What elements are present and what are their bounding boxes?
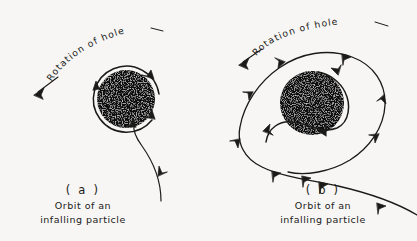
infall-arrowheads-a [126, 118, 167, 176]
black-hole-disk-a [97, 70, 155, 128]
panel-a-caption-block: ( a ) Orbit of an infalling particle [8, 183, 158, 226]
panel-b-caption-line2: infalling particle [248, 214, 398, 226]
panel-b-index-label: ( b ) [248, 183, 398, 198]
panel-a-caption-line1: Orbit of an [8, 200, 158, 212]
figure-canvas: Rotation of hole Rotation of hole ( a ) … [0, 0, 417, 241]
panel-b-caption-line1: Orbit of an [248, 200, 398, 212]
panel-a-index-label: ( a ) [8, 183, 158, 198]
rotation-label-b: Rotation of hole [250, 16, 339, 58]
panel-b-caption-block: ( b ) Orbit of an infalling particle [248, 183, 398, 226]
panel-a-caption-line2: infalling particle [8, 214, 158, 226]
black-hole-disk-b [280, 71, 344, 135]
